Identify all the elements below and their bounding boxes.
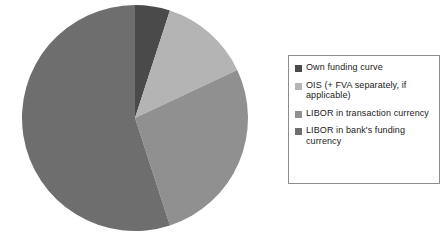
legend-item-label: LIBOR in transaction currency (306, 108, 429, 119)
legend-item-own-funding-curve[interactable]: Own funding curve (295, 62, 434, 73)
legend-item-ois[interactable]: OIS (+ FVA separately, if applicable) (295, 80, 434, 101)
legend-item-label: LIBOR in bank's funding currency (306, 125, 434, 146)
pie-plot-area (0, 0, 262, 233)
legend-item-libor-bank-funding-currency[interactable]: LIBOR in bank's funding currency (295, 125, 434, 146)
legend-swatch-icon (295, 83, 302, 90)
pie-slice-group (22, 5, 248, 231)
legend-item-label: Own funding curve (306, 62, 383, 73)
legend-swatch-icon (295, 65, 302, 72)
legend-swatch-icon (295, 111, 302, 118)
chart-legend: Own funding curve OIS (+ FVA separately,… (288, 55, 440, 184)
pie-svg (0, 0, 262, 233)
pie-chart-figure: Own funding curve OIS (+ FVA separately,… (0, 0, 446, 233)
legend-item-label: OIS (+ FVA separately, if applicable) (306, 80, 434, 101)
legend-swatch-icon (295, 128, 302, 135)
legend-item-libor-transaction-currency[interactable]: LIBOR in transaction currency (295, 108, 434, 119)
